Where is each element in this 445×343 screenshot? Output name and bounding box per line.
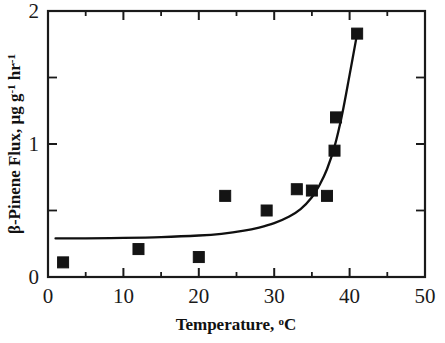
- scatter-plot-svg: 01020304050 012 Temperature, oC β-Pinene…: [0, 0, 445, 343]
- data-point: [291, 184, 302, 195]
- y-title-main: -Pinene Flux,: [5, 124, 24, 225]
- data-point: [352, 28, 363, 39]
- data-point: [329, 145, 340, 156]
- y-title-exp2: -1: [5, 54, 17, 63]
- x-tick-label-40: 40: [339, 284, 360, 308]
- y-tick-label-2: 2: [29, 0, 40, 23]
- x-title-celsius: C: [284, 315, 296, 334]
- y-title-exp1: -1: [5, 84, 17, 93]
- y-title-mu: μ: [5, 114, 24, 124]
- data-point: [321, 190, 332, 201]
- data-point: [331, 112, 342, 123]
- x-axis-title: Temperature, oC: [176, 315, 297, 334]
- data-point: [193, 252, 204, 263]
- data-point: [306, 185, 317, 196]
- x-tick-label-0: 0: [43, 284, 54, 308]
- y-title-units-hr: hr: [5, 63, 24, 85]
- y-tick-label-0: 0: [29, 265, 40, 289]
- x-tick-label-20: 20: [188, 284, 209, 308]
- y-axis-title: β-Pinene Flux, μg g-1 hr-1: [5, 54, 24, 234]
- chart-background: [0, 0, 445, 343]
- x-tick-label-10: 10: [113, 284, 134, 308]
- y-title-beta: β: [5, 225, 24, 234]
- data-point: [220, 190, 231, 201]
- data-point: [261, 205, 272, 216]
- y-title-units-g: g g: [5, 93, 24, 115]
- data-point: [133, 244, 144, 255]
- x-tick-label-30: 30: [264, 284, 285, 308]
- x-title-text: Temperature,: [176, 315, 279, 334]
- y-tick-label-1: 1: [29, 132, 40, 156]
- x-tick-label-50: 50: [415, 284, 436, 308]
- data-point: [58, 257, 69, 268]
- chart-figure: 01020304050 012 Temperature, oC β-Pinene…: [0, 0, 445, 343]
